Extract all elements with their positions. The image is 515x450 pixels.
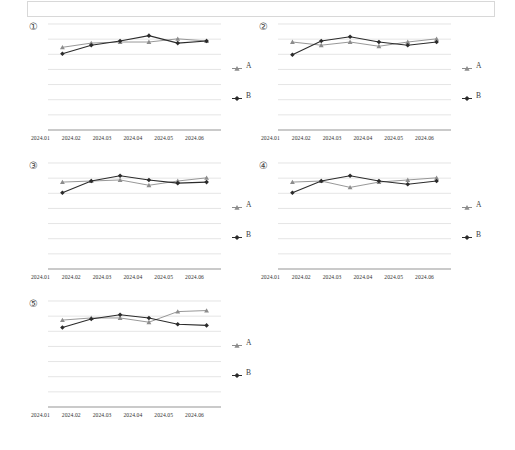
legend-label-a: A [246,61,251,70]
triangle-marker-icon [461,199,473,210]
panel-number-5: ⑤ [27,297,40,310]
x-tick-label: 2024.01 [25,274,56,280]
x-tick-label: 2024.06 [409,274,440,280]
legend-label-b: B [246,91,251,100]
x-tick-label: 2024.02 [286,274,317,280]
x-tick-label: 2024.04 [117,135,148,141]
x-tick-label: 2024.06 [179,135,210,141]
x-tick-label: 2024.05 [148,274,179,280]
x-tick-label: 2024.06 [179,412,210,418]
chart-panel-1: ① A B 2024.01 2024.02 2024.03 2024.04 20… [25,20,275,157]
legend-5: A B [231,337,271,397]
x-tick-label: 2024.04 [347,135,378,141]
x-tick-label: 2024.04 [347,274,378,280]
diamond-marker-icon [231,90,243,101]
legend-row-a: A [461,199,501,210]
panel-number-2: ② [257,20,270,33]
legend-label-a: A [476,200,481,209]
triangle-marker-icon [231,60,243,71]
triangle-marker-icon [231,199,243,210]
x-tick-label: 2024.02 [56,135,87,141]
x-axis-labels-1: 2024.01 2024.02 2024.03 2024.04 2024.05 … [25,135,210,141]
x-tick-label: 2024.03 [87,412,118,418]
x-tick-label: 2024.01 [25,412,56,418]
x-tick-label: 2024.01 [255,135,286,141]
x-tick-label: 2024.04 [117,412,148,418]
panel-number-1: ① [27,20,40,33]
legend-label-b: B [476,91,481,100]
x-tick-label: 2024.05 [148,135,179,141]
x-tick-label: 2024.03 [87,274,118,280]
legend-label-b: B [246,368,251,377]
legend-4: A B [461,199,501,259]
legend-label-a: A [246,200,251,209]
panel-number-3: ③ [27,159,40,172]
x-tick-label: 2024.06 [179,274,210,280]
panel-number-4: ④ [257,159,270,172]
x-axis-labels-2: 2024.01 2024.02 2024.03 2024.04 2024.05 … [255,135,440,141]
x-tick-label: 2024.05 [378,274,409,280]
triangle-marker-icon [231,337,243,348]
legend-label-a: A [476,61,481,70]
diamond-marker-icon [231,229,243,240]
chart-panel-3: ③ A B 2024.01 2024.02 2024.03 2024.04 20… [25,159,275,296]
x-tick-label: 2024.01 [25,135,56,141]
x-tick-label: 2024.06 [409,135,440,141]
chart-panel-2: ② A B 2024.01 2024.02 2024.03 2024.04 20… [255,20,505,157]
x-tick-label: 2024.05 [378,135,409,141]
diamond-marker-icon [461,90,473,101]
legend-row-b: B [461,90,501,101]
x-tick-label: 2024.02 [286,135,317,141]
legend-label-b: B [476,230,481,239]
x-tick-label: 2024.03 [87,135,118,141]
x-tick-label: 2024.02 [56,412,87,418]
legend-label-a: A [246,338,251,347]
legend-row-b: B [231,367,271,378]
x-axis-labels-4: 2024.01 2024.02 2024.03 2024.04 2024.05 … [255,274,440,280]
diamond-marker-icon [231,367,243,378]
legend-row-b: B [461,229,501,240]
x-tick-label: 2024.04 [117,274,148,280]
chart-panel-4: ④ A B 2024.01 2024.02 2024.03 2024.04 20… [255,159,505,296]
x-tick-label: 2024.01 [255,274,286,280]
x-tick-label: 2024.03 [317,135,348,141]
legend-label-b: B [246,230,251,239]
diamond-marker-icon [461,229,473,240]
legend-2: A B [461,60,501,120]
triangle-marker-icon [461,60,473,71]
x-axis-labels-3: 2024.01 2024.02 2024.03 2024.04 2024.05 … [25,274,210,280]
legend-row-a: A [231,337,271,348]
legend-row-a: A [461,60,501,71]
x-axis-labels-5: 2024.01 2024.02 2024.03 2024.04 2024.05 … [25,412,210,418]
chart-panel-5: ⑤ A B 2024.01 2024.02 2024.03 2024.04 20… [25,297,275,434]
x-tick-label: 2024.05 [148,412,179,418]
x-tick-label: 2024.02 [56,274,87,280]
x-tick-label: 2024.03 [317,274,348,280]
top-empty-box [27,1,495,17]
